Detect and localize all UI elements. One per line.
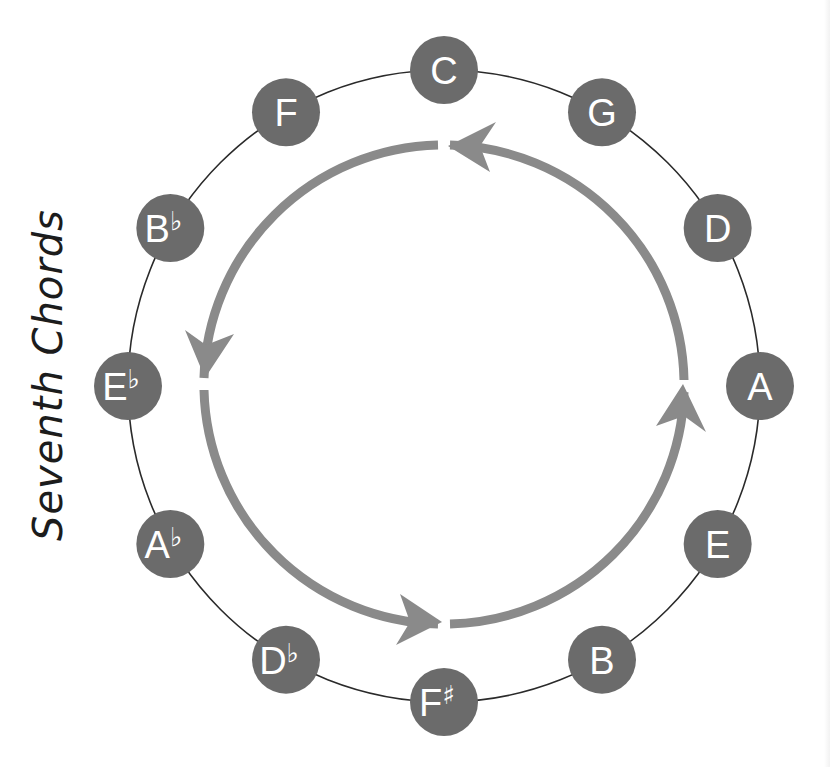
chord-node-b-flat: B♭ bbox=[136, 194, 204, 262]
sharp-icon: ♯ bbox=[442, 680, 455, 710]
arrow-top-to-left bbox=[204, 145, 438, 378]
progression-arrows bbox=[204, 145, 684, 624]
arrow-right-to-top bbox=[450, 145, 684, 380]
node-label: D bbox=[704, 208, 731, 250]
chord-node-f: F bbox=[252, 78, 320, 146]
chord-node-d-flat: D♭ bbox=[252, 626, 320, 694]
node-label: A bbox=[747, 366, 773, 408]
node-label: E bbox=[705, 524, 730, 566]
chord-node-d: D bbox=[684, 194, 752, 262]
chord-node-g: G bbox=[568, 78, 636, 146]
chord-node-a: A bbox=[726, 352, 794, 420]
flat-icon: ♭ bbox=[170, 206, 182, 236]
node-label: F bbox=[274, 92, 297, 134]
node-label: G bbox=[587, 92, 617, 134]
chord-node-e: E bbox=[684, 510, 752, 578]
chord-node-e-flat: E♭ bbox=[94, 352, 162, 420]
circle-of-fifths-diagram: CGDAEBF♯D♭A♭E♭B♭F bbox=[0, 0, 830, 767]
chord-nodes: CGDAEBF♯D♭A♭E♭B♭F bbox=[94, 36, 794, 736]
node-label: B bbox=[589, 640, 614, 682]
chord-node-f-sharp: F♯ bbox=[410, 668, 478, 736]
arrow-left-to-bottom bbox=[204, 390, 438, 624]
arrow-bottom-to-right bbox=[450, 392, 684, 624]
chord-node-b: B bbox=[568, 626, 636, 694]
outer-ring bbox=[128, 70, 760, 702]
arrowheads bbox=[185, 122, 706, 645]
chord-node-c: C bbox=[410, 36, 478, 104]
page-edge bbox=[824, 0, 830, 767]
flat-icon: ♭ bbox=[128, 364, 140, 394]
flat-icon: ♭ bbox=[287, 638, 299, 668]
flat-icon: ♭ bbox=[170, 522, 182, 552]
chord-node-a-flat: A♭ bbox=[136, 510, 204, 578]
node-label: C bbox=[430, 50, 457, 92]
